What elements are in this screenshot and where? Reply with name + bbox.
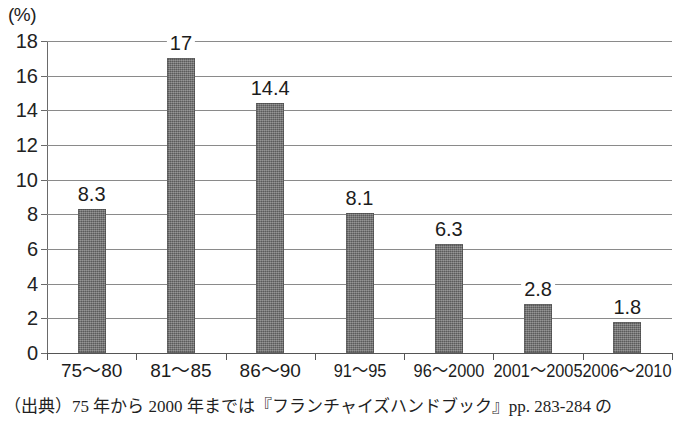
bar-value-label: 6.3 bbox=[432, 219, 466, 239]
x-tick-mark bbox=[404, 353, 405, 360]
y-tick-mark bbox=[41, 76, 47, 77]
x-category-label: 96〜2000 bbox=[413, 361, 484, 380]
y-tick-mark bbox=[41, 214, 47, 215]
x-category-label: 86〜90 bbox=[240, 361, 301, 380]
x-category-label: 81〜85 bbox=[150, 361, 211, 380]
bar bbox=[78, 209, 106, 353]
y-tick-mark bbox=[41, 41, 47, 42]
gridline bbox=[47, 180, 672, 181]
bar bbox=[346, 213, 374, 353]
gridline bbox=[47, 41, 672, 42]
bar bbox=[167, 58, 195, 353]
x-category-label: 2006〜2010 bbox=[583, 361, 672, 380]
y-tick-mark bbox=[41, 249, 47, 250]
y-tick-label: 8 bbox=[27, 204, 38, 224]
x-category-label: 91〜95 bbox=[333, 361, 386, 380]
y-tick-label: 2 bbox=[27, 308, 38, 328]
x-tick-mark bbox=[583, 353, 584, 360]
y-tick-label: 10 bbox=[16, 170, 38, 190]
y-tick-label: 18 bbox=[16, 31, 38, 51]
y-axis-unit-label: (%) bbox=[8, 4, 36, 26]
bar-value-label: 8.1 bbox=[343, 188, 377, 208]
y-tick-label: 4 bbox=[27, 274, 38, 294]
y-tick-mark bbox=[41, 284, 47, 285]
y-axis-line bbox=[47, 41, 48, 353]
x-tick-mark bbox=[493, 353, 494, 360]
x-category-label: 2001〜2005 bbox=[494, 361, 583, 380]
bar-value-label: 1.8 bbox=[610, 297, 644, 317]
x-tick-mark bbox=[136, 353, 137, 360]
x-tick-mark bbox=[226, 353, 227, 360]
bar-value-label: 17 bbox=[167, 33, 195, 53]
bar bbox=[256, 103, 284, 353]
y-tick-label: 6 bbox=[27, 239, 38, 259]
y-tick-mark bbox=[41, 145, 47, 146]
x-tick-mark bbox=[47, 353, 48, 360]
gridline bbox=[47, 110, 672, 111]
x-tick-mark bbox=[315, 353, 316, 360]
x-category-label: 75〜80 bbox=[61, 361, 122, 380]
x-tick-mark bbox=[672, 353, 673, 360]
bar bbox=[524, 304, 552, 353]
bar-chart-figure: (%) 181614121086420 8.31714.48.16.32.81.… bbox=[0, 0, 684, 427]
y-tick-mark bbox=[41, 180, 47, 181]
bar bbox=[435, 244, 463, 353]
bar-value-label: 8.3 bbox=[75, 184, 109, 204]
bar-value-label: 2.8 bbox=[521, 279, 555, 299]
y-tick-label: 0 bbox=[27, 343, 38, 363]
y-tick-label: 16 bbox=[16, 66, 38, 86]
y-tick-mark bbox=[41, 110, 47, 111]
y-tick-mark bbox=[41, 318, 47, 319]
gridline bbox=[47, 145, 672, 146]
bar-value-label: 14.4 bbox=[248, 78, 293, 98]
y-tick-label: 14 bbox=[16, 100, 38, 120]
source-caption: （出典）75 年から 2000 年までは『フランチャイズハンドブック』pp. 2… bbox=[4, 397, 680, 417]
bar bbox=[613, 322, 641, 353]
gridline bbox=[47, 76, 672, 77]
plot-area: 181614121086420 8.31714.48.16.32.81.8 bbox=[47, 41, 672, 353]
y-tick-label: 12 bbox=[16, 135, 38, 155]
